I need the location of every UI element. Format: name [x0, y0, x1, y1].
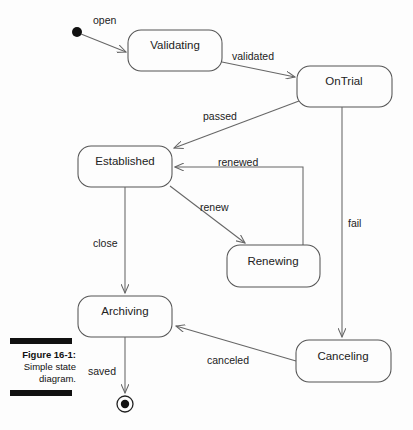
transition-open-arrow: [81, 34, 126, 52]
initial-state-marker: [72, 27, 82, 37]
transition-passed-label: passed: [203, 110, 237, 122]
caption-line-3: diagram.: [10, 373, 76, 385]
final-state-dot: [121, 400, 129, 408]
state-canceling-label: Canceling: [317, 350, 368, 362]
transition-validated-arrow: [222, 62, 295, 77]
figure-caption: Figure 16-1: Simple state diagram.: [10, 338, 76, 396]
transition-passed-arrow: [174, 101, 299, 148]
caption-rule-bottom: [10, 390, 72, 396]
state-established-label: Established: [95, 155, 154, 167]
state-renewing-label: Renewing: [247, 255, 298, 267]
state-validating-label: Validating: [150, 39, 200, 51]
transition-renew-label: renew: [200, 201, 229, 213]
caption-title: Figure 16-1:: [10, 349, 76, 361]
figure-page: Validating OnTrial Established Renewing …: [0, 0, 413, 430]
transition-fail-label: fail: [348, 217, 361, 229]
transition-renew-arrow: [170, 186, 245, 243]
state-archiving-label: Archiving: [101, 305, 148, 317]
transition-renewed-arrow: [175, 167, 303, 245]
transition-saved-label: saved: [88, 365, 116, 377]
transition-validated-label: validated: [232, 50, 274, 62]
state-ontrial-label: OnTrial: [325, 75, 362, 87]
caption-line-2: Simple state: [10, 361, 76, 373]
transition-open-label: open: [93, 14, 117, 26]
transition-renewed-label: renewed: [218, 156, 258, 168]
caption-body: Figure 16-1: Simple state diagram.: [10, 344, 76, 390]
transition-canceled-label: canceled: [207, 354, 249, 366]
transition-close-label: close: [93, 237, 118, 249]
